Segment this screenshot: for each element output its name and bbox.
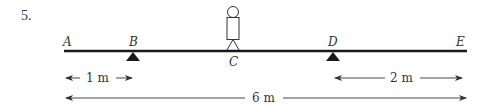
beam-diagram [0, 0, 488, 107]
person-figure [227, 7, 239, 51]
point-label-a: A [63, 36, 72, 48]
point-label-d: D [328, 36, 338, 48]
dimension-label-2m: 2 m [390, 72, 413, 84]
dimension-label-1m: 1 m [86, 72, 109, 84]
point-label-c: C [229, 56, 238, 68]
person-body [227, 18, 239, 40]
dimension-label-6m: 6 m [252, 92, 275, 104]
problem-number: 5. [21, 10, 32, 22]
point-label-b: B [129, 36, 138, 48]
person-head [228, 7, 239, 18]
support-B-fulcrum [126, 52, 140, 61]
point-label-e: E [456, 36, 465, 48]
support-D-fulcrum [326, 52, 340, 61]
